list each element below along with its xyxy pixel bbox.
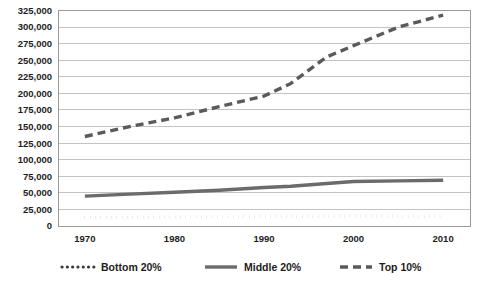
y-axis-tick-label: 25,000 [23, 204, 52, 215]
series-line-top-10 [85, 15, 443, 136]
y-axis-tick-label: 50,000 [23, 187, 52, 198]
y-axis-tick-label: 125,000 [18, 138, 52, 149]
legend-label: Top 10% [379, 261, 422, 273]
x-axis-tick-label: 1980 [164, 233, 185, 244]
y-axis-tick-label: 200,000 [18, 88, 52, 99]
y-axis-tick-label: 275,000 [18, 38, 52, 49]
series-line-middle-20 [85, 180, 443, 196]
y-axis-tick-label: 250,000 [18, 55, 52, 66]
chart-legend: Bottom 20%Middle 20%Top 10% [62, 261, 422, 273]
y-axis-tick-label: 175,000 [18, 104, 52, 115]
y-axis-tick-label: 75,000 [23, 171, 52, 182]
x-axis-tick-label: 2010 [433, 233, 454, 244]
x-axis-tick-label: 2000 [343, 233, 364, 244]
y-axis-tick-label: 100,000 [18, 154, 52, 165]
series-line-bottom-20 [85, 216, 443, 217]
y-axis-tick-label: 325,000 [18, 5, 52, 16]
y-axis-tick-label: 0 [47, 220, 52, 231]
line-chart: 025,00050,00075,000100,000125,000150,000… [0, 0, 479, 290]
y-axis-tick-label: 150,000 [18, 121, 52, 132]
x-axis-tick-label: 1990 [253, 233, 274, 244]
y-axis-tick-label: 225,000 [18, 71, 52, 82]
legend-label: Bottom 20% [101, 261, 162, 273]
y-axis-tick-label: 300,000 [18, 21, 52, 32]
data-series-group [85, 15, 443, 217]
y-axis-tick-labels: 025,00050,00075,000100,000125,000150,000… [18, 5, 52, 232]
x-axis-tick-label: 1970 [74, 233, 95, 244]
x-axis-tick-labels: 19701980199020002010 [74, 233, 453, 244]
legend-label: Middle 20% [244, 261, 302, 273]
chart-canvas: 025,00050,00075,000100,000125,000150,000… [0, 0, 479, 290]
